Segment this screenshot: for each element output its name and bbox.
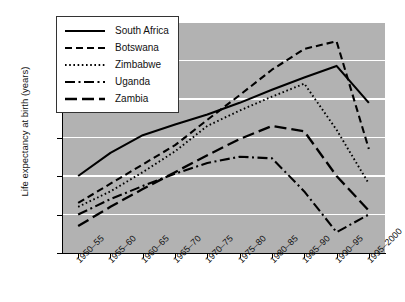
y-tick-mark bbox=[57, 253, 62, 254]
legend-item-botswana[interactable]: Botswana bbox=[64, 39, 169, 56]
series-line-uganda bbox=[78, 157, 369, 232]
legend-item-label: Zambia bbox=[115, 93, 148, 104]
legend-item-zambia[interactable]: Zambia bbox=[64, 90, 169, 107]
legend-item-label: Botswana bbox=[115, 42, 159, 53]
legend-item-label: South Africa bbox=[115, 25, 169, 36]
legend-item-zimbabwe[interactable]: Zimbabwe bbox=[64, 56, 169, 73]
series-line-zambia bbox=[78, 126, 369, 226]
legend-item-uganda[interactable]: Uganda bbox=[64, 73, 169, 90]
y-tick-mark bbox=[57, 215, 62, 216]
legend-item-label: Uganda bbox=[115, 76, 150, 87]
legend-line-swatch bbox=[64, 93, 106, 105]
legend-line-swatch bbox=[64, 25, 106, 37]
life-expectancy-line-chart: Life expectancy at birth (years) 3540455… bbox=[0, 0, 405, 302]
y-tick-mark bbox=[57, 138, 62, 139]
legend-item-south-africa[interactable]: South Africa bbox=[64, 22, 169, 39]
y-tick-mark bbox=[57, 176, 62, 177]
legend-line-swatch bbox=[64, 42, 106, 54]
legend: South AfricaBotswanaZimbabweUgandaZambia bbox=[56, 16, 179, 113]
legend-line-swatch bbox=[64, 59, 106, 71]
legend-line-swatch bbox=[64, 76, 106, 88]
y-axis-title: Life expectancy at birth (years) bbox=[19, 22, 30, 242]
legend-item-label: Zimbabwe bbox=[115, 59, 161, 70]
